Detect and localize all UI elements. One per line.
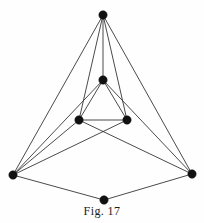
graph-edge-apex-to-inner-left (79, 15, 103, 120)
graph-edge-inner-right-to-outer-left (13, 120, 127, 175)
graph-edge-outer-right-to-bottom (104, 174, 192, 200)
graph-drawing (0, 0, 204, 223)
graph-edge-inner-left-to-outer-right (79, 120, 192, 174)
graph-vertex-outer-left (9, 171, 17, 179)
graph-vertex-bottom (100, 196, 108, 204)
graph-edge-inner-top-to-inner-right (103, 80, 127, 120)
graph-vertex-inner-left (75, 116, 83, 124)
graph-edge-apex-to-outer-left (13, 15, 103, 175)
graph-vertex-outer-right (188, 170, 196, 178)
edge-layer (13, 15, 192, 200)
vertex-layer (9, 11, 196, 204)
graph-edge-apex-to-inner-right (103, 15, 127, 120)
graph-edge-inner-top-to-inner-left (79, 80, 103, 120)
graph-edge-outer-left-to-bottom (13, 175, 104, 200)
graph-vertex-inner-top (99, 76, 107, 84)
figure-container: Fig. 17 (0, 0, 204, 223)
graph-vertex-inner-right (123, 116, 131, 124)
graph-vertex-apex (99, 11, 107, 19)
figure-caption: Fig. 17 (0, 204, 204, 219)
